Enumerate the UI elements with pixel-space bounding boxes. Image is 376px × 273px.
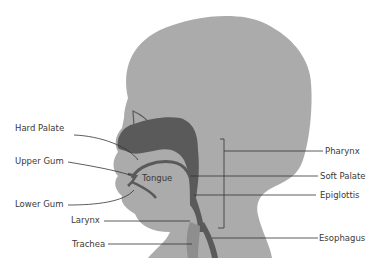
label-upper-gum: Upper Gum [15,156,64,166]
label-tongue: Tongue [142,173,172,183]
anatomy-diagram: Hard Palate Upper Gum Lower Gum Larynx T… [0,0,376,273]
trachea [187,222,200,258]
label-hard-palate: Hard Palate [15,123,64,133]
label-lower-gum: Lower Gum [15,199,63,209]
label-epiglottis: Epiglottis [320,190,360,200]
label-larynx: Larynx [71,215,100,225]
label-trachea: Trachea [72,239,105,249]
label-esophagus: Esophagus [319,233,365,243]
label-pharynx: Pharynx [325,146,360,156]
label-soft-palate: Soft Palate [320,171,366,181]
